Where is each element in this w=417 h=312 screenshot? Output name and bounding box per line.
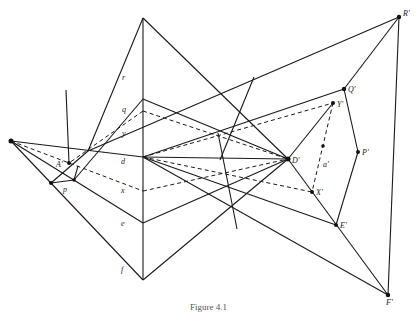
label-r: r — [122, 73, 126, 82]
point-A-prime — [67, 161, 71, 165]
label-R-prime: R' — [402, 9, 410, 18]
line-D-to-E — [288, 159, 388, 295]
line-e-right — [143, 159, 288, 223]
label-Q-prime: Q' — [348, 85, 356, 94]
label-A-prime: A' — [55, 160, 63, 169]
point-p — [49, 181, 53, 185]
line-apex-right — [143, 18, 288, 159]
line-x-right — [143, 159, 288, 191]
point-Y-prime — [331, 101, 335, 105]
label-D-prime: D' — [291, 156, 300, 165]
label-e: e — [121, 219, 125, 228]
label-y: y — [121, 129, 126, 138]
line-d-right — [143, 157, 288, 159]
label-f: f — [121, 265, 125, 274]
label-q: q — [122, 105, 126, 114]
point-p2 — [72, 178, 76, 182]
label-X-prime: X' — [315, 188, 323, 197]
label-Y-prime: Y' — [337, 100, 343, 109]
label-E-prime: E' — [339, 221, 347, 230]
figure-caption: Figure 4.1 — [0, 302, 417, 312]
label-P-prime: P' — [361, 148, 369, 157]
point-E-prime — [334, 223, 338, 227]
label-p: p — [62, 185, 67, 194]
label-d: d — [121, 157, 126, 166]
line-P-E — [336, 152, 358, 225]
point-X-prime — [310, 190, 314, 194]
line-f-right — [143, 159, 288, 280]
point-left — [9, 139, 14, 144]
point-D-prime — [286, 157, 291, 162]
line-d-to-E — [143, 157, 336, 225]
point-Q-prime — [342, 87, 346, 91]
point-R-prime — [397, 15, 401, 19]
line-Q-P — [344, 89, 358, 152]
line-q — [74, 99, 143, 180]
point-F-prime — [386, 293, 390, 297]
crossing-line — [220, 77, 254, 160]
short-vertical — [66, 90, 69, 163]
point-P-prime — [356, 150, 360, 154]
line-R-Q — [344, 17, 399, 89]
point-a-prime — [321, 144, 325, 148]
line-d-to-Q — [143, 89, 344, 157]
label-a-prime: a' — [323, 160, 329, 169]
line-R-F — [388, 17, 399, 295]
label-x: x — [120, 186, 125, 195]
